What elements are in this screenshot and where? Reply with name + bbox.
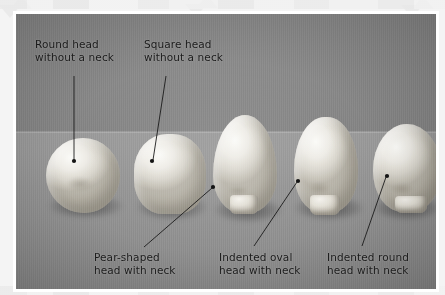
watermark-band-top — [0, 0, 445, 9]
leader-line-indented-round-head — [362, 177, 386, 246]
anchor-dot-round-head — [72, 159, 76, 163]
leader-line-indented-oval-head — [254, 182, 297, 246]
anchor-dot-pear-shaped-head — [211, 185, 215, 189]
callout-label-indented-oval-head: Indented oval head with neck — [219, 251, 301, 277]
leader-line-square-head — [153, 76, 166, 160]
photo-frame: Round head without a neck Square head wi… — [13, 11, 439, 292]
callout-label-pear-shaped-head: Pear-shaped head with neck — [94, 251, 176, 277]
anchor-dot-indented-oval-head — [296, 179, 300, 183]
page-background: Round head without a neck Square head wi… — [0, 0, 445, 295]
anchor-dot-indented-round-head — [385, 174, 389, 178]
callout-label-indented-round-head: Indented round head with neck — [327, 251, 409, 277]
callout-label-square-head: Square head without a neck — [144, 38, 223, 64]
specimen-photograph: Round head without a neck Square head wi… — [16, 14, 436, 289]
callout-label-round-head: Round head without a neck — [35, 38, 114, 64]
leader-line-pear-shaped-head — [144, 188, 212, 247]
anchor-dot-square-head — [150, 159, 154, 163]
